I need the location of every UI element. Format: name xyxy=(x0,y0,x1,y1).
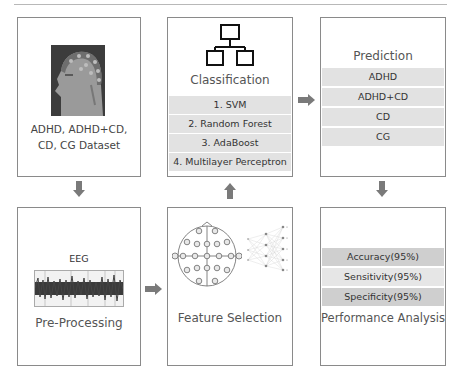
performance-analysis-box: Accuracy(95%) Sensitivity(95%) Specifici… xyxy=(320,207,446,366)
preprocessing-box: EEG Pre-Processing xyxy=(17,207,141,366)
metric-row-sensitivity: Sensitivity(95%) xyxy=(322,268,444,286)
classification-box: Classification 1. SVM 2. Random Forest 3… xyxy=(167,17,293,177)
classification-title: Classification xyxy=(168,73,292,87)
electrode-map-icon xyxy=(172,220,242,290)
prediction-class-row: ADHD+CD xyxy=(322,88,444,106)
arrow-up-feature-to-classification xyxy=(224,183,236,203)
arrow-down-dataset-to-preprocessing xyxy=(73,181,85,201)
preprocessing-title: Pre-Processing xyxy=(18,316,140,330)
method-row: 3. AdaBoost xyxy=(169,134,291,152)
arrow-right-preprocessing-to-feature xyxy=(145,280,162,299)
prediction-class-row: CG xyxy=(322,128,444,146)
metric-row-specificity: Specificity(95%) xyxy=(322,288,444,306)
method-row: 4. Multilayer Perceptron xyxy=(169,153,291,171)
eeg-cap-head-icon xyxy=(51,45,105,116)
arrow-right-classification-to-prediction xyxy=(298,91,315,110)
eeg-label: EEG xyxy=(18,253,140,264)
neural-network-icon xyxy=(246,224,290,274)
prediction-box: Prediction ADHD ADHD+CD CD CG xyxy=(320,17,446,177)
dataset-box: ADHD, ADHD+CD, CD, CG Dataset xyxy=(17,17,141,177)
prediction-class-row: CD xyxy=(322,108,444,126)
method-row: 2. Random Forest xyxy=(169,115,291,133)
arrow-down-prediction-to-performance xyxy=(376,181,388,201)
dataset-label-line1: ADHD, ADHD+CD, xyxy=(18,123,140,135)
prediction-title: Prediction xyxy=(321,49,445,63)
feature-selection-title: Feature Selection xyxy=(168,311,292,325)
eeg-signal-waveform-icon xyxy=(34,270,124,307)
top-divider xyxy=(14,4,447,5)
metric-row-accuracy: Accuracy(95%) xyxy=(322,248,444,266)
hierarchy-tree-icon xyxy=(205,23,255,67)
feature-selection-box: Feature Selection xyxy=(167,207,293,366)
method-row: 1. SVM xyxy=(169,96,291,114)
prediction-class-row: ADHD xyxy=(322,68,444,86)
dataset-label-line2: CD, CG Dataset xyxy=(18,139,140,151)
performance-analysis-title: Performance Analysis xyxy=(321,311,445,325)
